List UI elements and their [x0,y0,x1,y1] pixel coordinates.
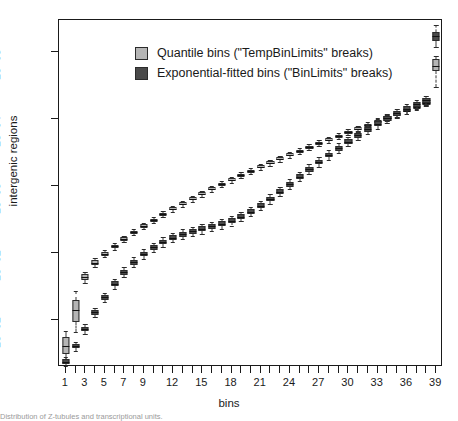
cap-lower [307,174,311,175]
x-tick-mark [143,366,144,373]
box-plot [238,172,245,178]
cap-lower [249,174,253,175]
x-tick-mark [201,366,202,373]
x-tick-mark [328,366,329,373]
x-tick-label: 18 [219,376,243,388]
cap-upper [132,257,136,258]
box-plot [179,229,186,239]
cap-upper [424,96,428,97]
box-plot [91,258,98,267]
legend-label: Exponential-fitted bins ("BinLimits" bre… [157,66,392,80]
box-plot [140,223,147,229]
box-plot [218,219,225,229]
cap-upper [317,157,321,158]
median-line [286,155,293,156]
cap-upper [375,119,379,120]
whisker-lower [436,71,437,87]
median-line [296,151,303,152]
cap-lower [297,181,301,182]
box-plot [247,168,254,174]
x-tick-mark [192,366,193,373]
median-line [199,194,206,195]
cap-upper [181,229,185,230]
median-line [296,177,303,178]
x-tick-label: 24 [277,376,301,388]
median-line [413,104,420,105]
x-tick-mark [172,366,173,373]
cap-lower [414,110,418,111]
cap-upper [346,137,350,138]
cap-lower [385,123,389,124]
box-plot [150,243,157,253]
x-tick-mark [425,366,426,373]
median-line [335,148,342,149]
box-plot [160,237,167,247]
box-plot [433,56,440,87]
y-tick-mark [51,118,58,119]
legend-item[interactable]: Exponential-fitted bins ("BinLimits" bre… [135,64,392,82]
box-plot [286,152,293,158]
x-tick-mark [299,366,300,373]
cap-lower [132,267,136,268]
median-line [433,66,440,67]
box-plot [199,224,206,234]
cap-lower [103,257,107,258]
cap-upper [239,212,243,213]
median-line [228,221,235,222]
cap-lower [414,109,418,110]
median-line [345,132,352,133]
box-plot [199,191,206,197]
chart-figure: intergenic regions 1e+011e+021e+031e+041… [0,0,458,421]
box-plot [316,140,323,146]
box-plot [403,104,410,114]
cap-upper [278,187,282,188]
x-tick-mark [104,366,105,373]
cap-lower [220,187,224,188]
median-line [218,224,225,225]
cap-upper [356,131,360,132]
box-plot [423,96,430,106]
cap-upper [336,143,340,144]
cap-lower [249,216,253,217]
cap-lower [142,229,146,230]
cap-upper [297,172,301,173]
cap-upper [229,216,233,217]
x-tick-mark [260,366,261,373]
legend-swatch-icon [135,67,148,80]
cap-upper [259,201,263,202]
cap-lower [268,204,272,205]
cap-upper [249,207,253,208]
cap-lower [395,118,399,119]
cap-upper [83,324,87,325]
legend-item[interactable]: Quantile bins ("TempBinLimits" breaks) [135,44,392,62]
median-line [140,226,147,227]
x-tick-mark [153,366,154,373]
box-plot [296,172,303,182]
median-line [101,254,108,255]
x-tick-mark [308,366,309,373]
plot-area: Quantile bins ("TempBinLimits" breaks)Ex… [58,19,442,366]
box-plot [72,291,79,332]
cap-lower [200,197,204,198]
cap-upper [200,224,204,225]
box-plot [267,160,274,166]
cap-upper [142,249,146,250]
median-line [101,297,108,298]
y-tick-mark [51,185,58,186]
box-plot [325,137,332,143]
legend-label: Quantile bins ("TempBinLimits" breaks) [157,46,373,60]
cap-lower [229,183,233,184]
x-tick-mark [182,366,183,373]
median-line [199,229,206,230]
box-plot [277,156,284,162]
box-plot [306,144,313,150]
cap-lower [307,150,311,151]
box-plot [413,100,420,110]
box-plot [111,279,118,289]
x-tick-mark [123,366,124,373]
box-plot [218,181,225,187]
box-plot [82,324,89,334]
cap-upper [122,267,126,268]
box-plot [384,114,391,124]
cap-lower [336,139,340,140]
